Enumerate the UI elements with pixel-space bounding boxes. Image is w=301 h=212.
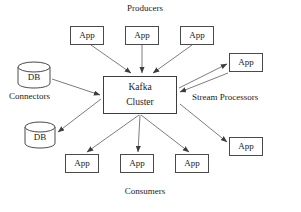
group-label-connectors: Connectors bbox=[9, 91, 50, 101]
database-cylinder-icon bbox=[17, 61, 51, 89]
kafka-cluster-line-1: Kafka bbox=[128, 82, 151, 93]
kafka-cluster-line-2: Cluster bbox=[126, 97, 153, 108]
connector-database-node-2[interactable]: DB bbox=[24, 121, 56, 149]
producer-app-label-1: App bbox=[79, 30, 95, 40]
consumer-app-node-2[interactable]: App bbox=[120, 154, 154, 173]
producer-app-node-1[interactable]: App bbox=[70, 26, 104, 45]
database-cylinder-icon bbox=[24, 121, 56, 149]
stream-processor-app-label-2: App bbox=[238, 141, 254, 151]
stream-processor-app-label-1: App bbox=[238, 57, 254, 67]
group-label-consumers: Consumers bbox=[105, 186, 185, 196]
producer-app-label-3: App bbox=[189, 30, 205, 40]
stream-processor-app-node-2[interactable]: App bbox=[229, 137, 263, 156]
consumer-app-label-3: App bbox=[184, 158, 200, 168]
edge-producer-1-to-hub bbox=[91, 45, 131, 73]
consumer-app-node-1[interactable]: App bbox=[65, 154, 99, 173]
consumer-app-node-3[interactable]: App bbox=[175, 154, 209, 173]
consumer-app-label-2: App bbox=[129, 158, 145, 168]
producer-app-node-3[interactable]: App bbox=[180, 26, 214, 45]
edge-connector-db-top-to-hub bbox=[52, 79, 100, 95]
stream-processor-app-node-1[interactable]: App bbox=[229, 53, 263, 72]
consumer-app-label-1: App bbox=[74, 158, 90, 168]
edge-hub-to-connector-db-bottom bbox=[58, 99, 101, 132]
producer-app-node-2[interactable]: App bbox=[125, 26, 159, 45]
edge-hub-to-consumer-1 bbox=[87, 115, 139, 152]
edge-hub-to-stream-processor-2 bbox=[180, 104, 227, 142]
group-label-producers: Producers bbox=[105, 3, 185, 13]
kafka-cluster-node[interactable]: Kafka Cluster bbox=[103, 76, 177, 114]
connector-database-node-1[interactable]: DB bbox=[17, 61, 51, 89]
edge-producer-3-to-hub bbox=[153, 45, 192, 73]
group-label-stream-processors: Stream Processors bbox=[192, 92, 258, 102]
kafka-architecture-diagram: Producers Consumers Connectors Stream Pr… bbox=[0, 0, 301, 212]
edge-hub-to-consumer-3 bbox=[141, 115, 189, 152]
producer-app-label-2: App bbox=[134, 30, 150, 40]
edge-hub-to-consumer-2 bbox=[138, 115, 140, 152]
